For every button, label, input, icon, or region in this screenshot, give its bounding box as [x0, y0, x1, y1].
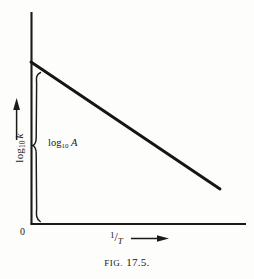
- arrhenius-plot: [0, 0, 254, 279]
- y-axis-label-text: log10k: [13, 133, 27, 162]
- y-axis-label-variable: k: [13, 133, 25, 140]
- x-axis-right-arrow-icon: [131, 235, 169, 242]
- y-axis-label: log10k: [12, 120, 28, 176]
- y-axis-label-main: log: [13, 148, 25, 163]
- origin-label: 0: [20, 227, 25, 237]
- intercept-annotation-label: log10A: [48, 138, 77, 150]
- x-axis-label: 1/T: [110, 231, 123, 246]
- y-axis-label-subscript: 10: [18, 140, 27, 148]
- figure-caption: FIG. 17.5.: [0, 256, 254, 268]
- intercept-label-main: log: [48, 137, 61, 148]
- figure-container: log10k log10A 0 1/T FIG. 17.5.: [0, 0, 254, 279]
- figure-caption-number: 17.5.: [126, 256, 150, 268]
- data-line-arrhenius: [31, 62, 220, 189]
- intercept-label-variable: A: [68, 137, 77, 148]
- x-axis-label-denominator: T: [118, 236, 123, 246]
- figure-caption-prefix: FIG.: [104, 258, 123, 268]
- intercept-brace-icon: [33, 73, 41, 222]
